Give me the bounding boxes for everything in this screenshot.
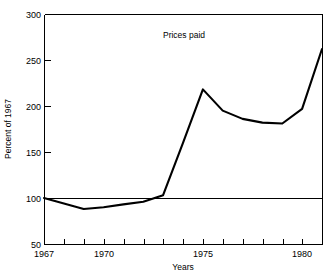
x-tick-label-1967: 1967	[34, 249, 54, 259]
x-tick-label-1980: 1980	[292, 249, 312, 259]
y-tick-label-200: 200	[26, 102, 41, 112]
y-tick-label-100: 100	[26, 194, 41, 204]
chart-figure: 300 250 200 150 100 50 1967 1970 1975 19…	[0, 0, 334, 274]
y-tick-label-300: 300	[26, 10, 41, 20]
y-tick-label-250: 250	[26, 56, 41, 66]
x-tick-labels: 1967 1970 1975 1980	[34, 249, 312, 259]
y-tick-label-50: 50	[31, 240, 41, 250]
y-tick-labels: 300 250 200 150 100 50	[26, 10, 41, 250]
y-axis-title: Percent of 1967	[3, 99, 13, 159]
y-tick-label-150: 150	[26, 148, 41, 158]
x-axis-title: Years	[172, 262, 193, 272]
x-tick-label-1970: 1970	[94, 249, 114, 259]
line-chart: 300 250 200 150 100 50 1967 1970 1975 19…	[0, 0, 334, 274]
series-annotation-prices-paid: Prices paid	[163, 30, 205, 40]
x-tick-label-1975: 1975	[193, 249, 213, 259]
